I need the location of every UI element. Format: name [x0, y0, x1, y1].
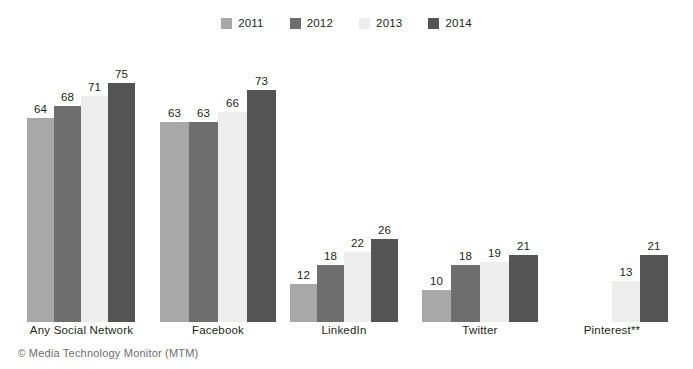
bar-rect [422, 290, 451, 322]
bar-rect [290, 284, 317, 322]
bar-value-label: 10 [430, 275, 443, 288]
bar-rect [612, 281, 640, 322]
bar-rect [317, 265, 344, 322]
category-label: Any Social Network [27, 323, 136, 337]
bar-2013[interactable]: 71 [81, 52, 108, 322]
bar-group: 63636673Facebook [160, 52, 276, 322]
bar-value-label: 18 [459, 250, 472, 263]
bar-rect [640, 255, 668, 322]
category-label: LinkedIn [290, 323, 398, 337]
bar-value-label: 26 [378, 224, 391, 237]
bar-2012[interactable] [584, 52, 612, 322]
bar-2011[interactable]: 63 [160, 52, 189, 322]
bar-2014[interactable]: 75 [108, 52, 135, 322]
bar-rect [509, 255, 538, 322]
bar-rect [54, 106, 81, 322]
copyright-icon: © [18, 348, 26, 359]
bar-2012[interactable]: 18 [317, 52, 344, 322]
bar-value-label: 66 [226, 97, 239, 110]
bar-value-label: 63 [197, 107, 210, 120]
bar-2012[interactable]: 63 [189, 52, 218, 322]
bar-2011[interactable]: 12 [290, 52, 317, 322]
bar-value-label: 63 [168, 107, 181, 120]
bar-2013[interactable]: 19 [480, 52, 509, 322]
bar-2012[interactable]: 68 [54, 52, 81, 322]
bar-rect [247, 90, 276, 322]
source-text: Media Technology Monitor (MTM) [29, 347, 199, 359]
bar-2013[interactable]: 22 [344, 52, 371, 322]
bar-rect [189, 122, 218, 322]
bar-group-bars: 10181921 [422, 52, 538, 322]
bar-rect [344, 252, 371, 322]
bar-group-bars: 64687175 [27, 52, 136, 322]
chart-plot-area: 64687175Any Social Network63636673Facebo… [0, 0, 693, 369]
bar-rect [27, 118, 54, 322]
bar-2011[interactable]: 10 [422, 52, 451, 322]
bar-rect [371, 239, 398, 322]
bar-value-label: 68 [61, 91, 74, 104]
bar-value-label: 75 [115, 68, 128, 81]
bar-2014[interactable]: 21 [509, 52, 538, 322]
bar-2014[interactable]: 26 [371, 52, 398, 322]
bar-value-label: 18 [324, 250, 337, 263]
bar-2011[interactable] [556, 52, 584, 322]
bar-rect [451, 265, 480, 322]
bar-value-label: 64 [34, 103, 47, 116]
bar-value-label: 73 [255, 75, 268, 88]
bar-group-bars: 1321 [556, 52, 668, 322]
bar-2011[interactable]: 64 [27, 52, 54, 322]
bar-group-bars: 12182226 [290, 52, 398, 322]
bar-group-bars: 63636673 [160, 52, 276, 322]
bar-2013[interactable]: 13 [612, 52, 640, 322]
bar-2013[interactable]: 66 [218, 52, 247, 322]
bar-group: 10181921Twitter [422, 52, 538, 322]
bar-value-label: 22 [351, 237, 364, 250]
bar-2012[interactable]: 18 [451, 52, 480, 322]
bar-rect [160, 122, 189, 322]
bar-2014[interactable]: 73 [247, 52, 276, 322]
bar-value-label: 21 [517, 240, 530, 253]
category-label: Pinterest** [556, 323, 668, 337]
bar-value-label: 71 [88, 81, 101, 94]
category-label: Facebook [160, 323, 276, 337]
bar-rect [81, 96, 108, 322]
bar-rect [218, 112, 247, 322]
bar-2014[interactable]: 21 [640, 52, 668, 322]
bar-group: 64687175Any Social Network [27, 52, 136, 322]
bar-value-label: 13 [619, 266, 632, 279]
chart-container: 2011201220132014 64687175Any Social Netw… [0, 0, 693, 369]
chart-source-credit: © Media Technology Monitor (MTM) [18, 347, 198, 360]
bar-group: 1321Pinterest** [556, 52, 668, 322]
category-label: Twitter [422, 323, 538, 337]
bar-value-label: 12 [297, 269, 310, 282]
bar-rect [480, 262, 509, 322]
bar-value-label: 19 [488, 247, 501, 260]
bar-rect [108, 83, 135, 322]
bar-group: 12182226LinkedIn [290, 52, 398, 322]
bar-value-label: 21 [647, 240, 660, 253]
